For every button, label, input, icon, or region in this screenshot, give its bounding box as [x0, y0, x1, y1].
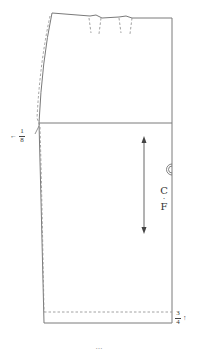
hip-corner-flare	[35, 126, 39, 134]
notch-icon	[167, 164, 173, 175]
fraction-three-quarters: 3 4	[175, 310, 181, 326]
figure-caption: …	[0, 343, 198, 349]
waist-darts	[89, 18, 132, 34]
center-front-label: C · F	[158, 186, 170, 212]
pattern-drawing	[0, 0, 198, 349]
pattern-diagram: ← 1 8 C · F 3 4 ↑ …	[0, 0, 198, 349]
grainline-arrow-icon	[142, 136, 147, 234]
numerator: 1	[20, 128, 24, 135]
fraction-one-eighth: 1 8	[19, 128, 25, 144]
side-seam-measure-label: ← 1 8	[10, 128, 25, 144]
denominator: 4	[176, 319, 180, 326]
waistline	[52, 13, 172, 18]
up-arrow-icon: ↑	[183, 315, 187, 322]
cf-letter-f: F	[161, 201, 168, 212]
hem-measure-label: 3 4 ↑	[175, 310, 187, 326]
left-arrow-icon: ←	[10, 133, 17, 140]
denominator: 8	[20, 137, 24, 144]
numerator: 3	[176, 310, 180, 317]
side-seam-dashed	[37, 16, 50, 312]
